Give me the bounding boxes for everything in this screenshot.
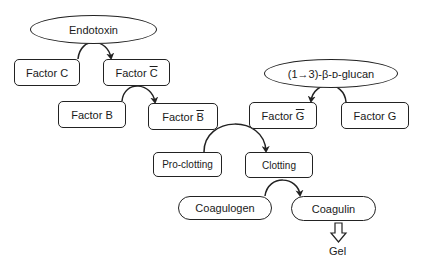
clotting-node: Clotting [245, 152, 313, 178]
pro-clotting-node: Pro-clotting [153, 152, 222, 177]
endotoxin-node: Endotoxin [30, 15, 157, 44]
factor-b-active-node: Factor B [148, 103, 218, 130]
arrow-factor-b-activation [122, 86, 155, 102]
factor-g-active-symbol: G [296, 110, 305, 122]
pro-clotting-label: Pro-clotting [162, 159, 213, 170]
factor-b-label: Factor B [71, 109, 113, 121]
factor-c-active-prefix: Factor [115, 67, 149, 79]
factor-g-label: Factor G [354, 110, 397, 122]
arrow-coagulin-conversion [265, 180, 300, 196]
coagulogen-label: Coagulogen [195, 202, 254, 214]
factor-c-active-node: Factor C [103, 59, 170, 86]
endotoxin-label: Endotoxin [69, 24, 118, 36]
clotting-label: Clotting [262, 160, 296, 171]
factor-b-active-prefix: Factor [162, 111, 196, 123]
factor-b-node: Factor B [58, 101, 126, 128]
gel-label: Gel [329, 245, 346, 257]
coagulin-label: Coagulin [312, 203, 355, 215]
arrow-factor-c-activation [78, 42, 111, 59]
glucan-node: (1→3)-β-ᴅ-glucan [264, 59, 398, 88]
factor-b-active-symbol: B [196, 111, 203, 123]
factor-g-active-prefix: Factor [262, 110, 296, 122]
factor-g-active-node: Factor G [249, 102, 317, 129]
factor-c-active-symbol: C [150, 67, 158, 79]
coagulin-node: Coagulin [291, 196, 376, 221]
glucan-label: (1→3)-β-ᴅ-glucan [288, 68, 374, 80]
factor-c-label: Factor C [26, 67, 68, 79]
factor-g-node: Factor G [341, 102, 409, 129]
factor-c-node: Factor C [14, 59, 80, 86]
coagulogen-node: Coagulogen [178, 196, 272, 220]
hollow-arrow-to-gel [331, 223, 346, 242]
